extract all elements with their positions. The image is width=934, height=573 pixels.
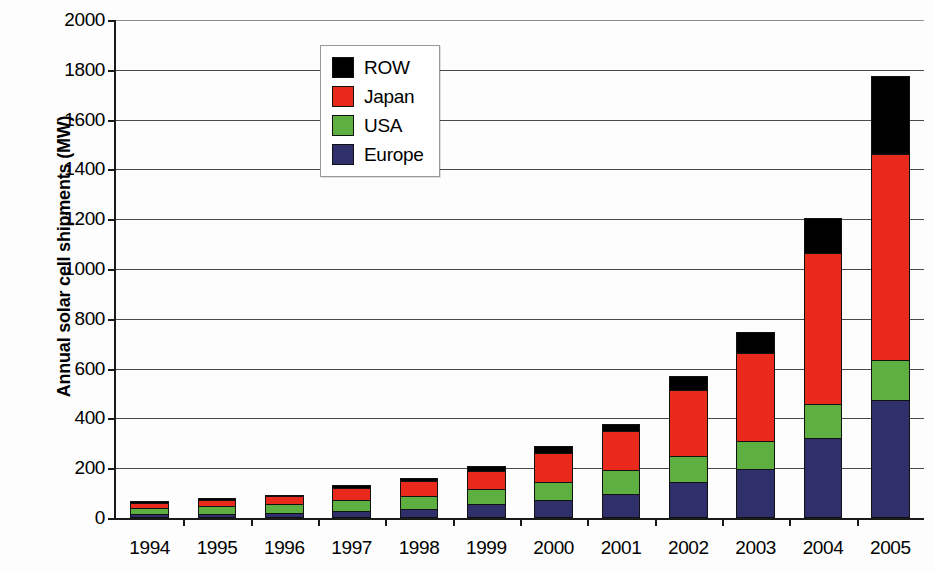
stacked-bar-chart: Annual solar cell shipments (MW) 0200400… <box>0 0 934 573</box>
x-tick-label: 2005 <box>870 537 911 559</box>
bar-stack[interactable] <box>804 219 842 518</box>
bar-segment-europe[interactable] <box>467 504 506 518</box>
bar-segment-usa[interactable] <box>871 360 910 401</box>
bar-segment-row[interactable] <box>332 485 371 489</box>
y-tick-label: 2000 <box>64 9 105 31</box>
legend-label: ROW <box>364 57 410 79</box>
x-tick-mark <box>520 518 522 526</box>
x-tick-mark <box>655 518 657 526</box>
x-tick-label: 2004 <box>803 537 844 559</box>
bar-segment-row[interactable] <box>669 376 708 391</box>
bar-segment-europe[interactable] <box>669 482 708 518</box>
bar-segment-row[interactable] <box>736 332 775 354</box>
bar-group[interactable] <box>131 20 169 518</box>
bar-stack[interactable] <box>333 486 371 518</box>
bar-segment-row[interactable] <box>871 76 910 154</box>
bar-group[interactable] <box>602 20 640 518</box>
bar-group[interactable] <box>535 20 573 518</box>
legend-item-row[interactable]: ROW <box>332 53 423 82</box>
bar-segment-row[interactable] <box>265 495 304 498</box>
bar-segment-row[interactable] <box>602 424 641 433</box>
bar-segment-europe[interactable] <box>534 500 573 519</box>
y-tick-label: 1200 <box>64 208 105 230</box>
y-tick-mark <box>108 20 116 22</box>
x-tick-label: 2000 <box>533 537 574 559</box>
bar-segment-usa[interactable] <box>669 456 708 483</box>
bar-group[interactable] <box>467 20 505 518</box>
legend-swatch-icon <box>332 144 354 165</box>
bar-segment-usa[interactable] <box>400 496 439 510</box>
bar-segment-japan[interactable] <box>467 471 506 490</box>
bar-segment-row[interactable] <box>130 501 169 505</box>
bar-segment-japan[interactable] <box>400 481 439 498</box>
bar-stack[interactable] <box>265 496 303 518</box>
bar-segment-usa[interactable] <box>736 441 775 470</box>
bar-segment-japan[interactable] <box>736 353 775 443</box>
bar-segment-japan[interactable] <box>332 488 371 501</box>
bar-stack[interactable] <box>737 333 775 519</box>
x-tick-mark <box>385 518 387 526</box>
bar-segment-usa[interactable] <box>804 404 843 439</box>
y-tick-mark <box>108 418 116 420</box>
y-tick-label: 1000 <box>64 258 105 280</box>
bar-segment-europe[interactable] <box>871 400 910 518</box>
bar-segment-usa[interactable] <box>198 506 237 515</box>
bar-segment-usa[interactable] <box>332 500 371 513</box>
bar-segment-japan[interactable] <box>804 253 843 405</box>
bar-stack[interactable] <box>669 377 707 518</box>
bar-segment-row[interactable] <box>467 466 506 473</box>
x-tick-label: 1994 <box>129 537 170 559</box>
bar-group[interactable] <box>198 20 236 518</box>
bar-segment-row[interactable] <box>534 446 573 454</box>
bar-segment-japan[interactable] <box>669 390 708 457</box>
bar-segment-usa[interactable] <box>265 504 304 514</box>
bar-segment-row[interactable] <box>804 218 843 254</box>
y-tick-mark <box>108 319 116 321</box>
bar-group[interactable] <box>669 20 707 518</box>
bar-group[interactable] <box>265 20 303 518</box>
bar-segment-europe[interactable] <box>400 509 439 518</box>
legend-swatch-icon <box>332 115 354 136</box>
bar-stack[interactable] <box>467 467 505 518</box>
x-tick-mark <box>857 518 859 526</box>
y-tick-label: 0 <box>95 507 105 529</box>
bar-segment-japan[interactable] <box>602 431 641 471</box>
bar-stack[interactable] <box>535 447 573 518</box>
y-tick-mark <box>108 219 116 221</box>
bar-segment-row[interactable] <box>198 498 237 501</box>
plot-area: 0200400600800100012001400160018002000 19… <box>114 20 924 520</box>
bar-segment-japan[interactable] <box>265 496 304 505</box>
legend-label: USA <box>364 115 402 137</box>
legend-item-usa[interactable]: USA <box>332 111 423 140</box>
y-tick-mark <box>108 120 116 122</box>
bar-segment-europe[interactable] <box>804 437 843 518</box>
bar-segment-europe[interactable] <box>602 493 641 518</box>
bar-stack[interactable] <box>400 479 438 518</box>
x-tick-mark <box>587 518 589 526</box>
legend-item-europe[interactable]: Europe <box>332 140 423 169</box>
x-tick-mark <box>789 518 791 526</box>
y-tick-label: 200 <box>74 457 105 479</box>
bar-group[interactable] <box>737 20 775 518</box>
bar-segment-japan[interactable] <box>871 153 910 361</box>
x-tick-mark <box>318 518 320 526</box>
x-tick-label: 1999 <box>466 537 507 559</box>
bar-stack[interactable] <box>198 499 236 518</box>
x-tick-mark <box>453 518 455 526</box>
legend-label: Europe <box>364 144 423 166</box>
bar-segment-usa[interactable] <box>467 489 506 506</box>
legend-item-japan[interactable]: Japan <box>332 82 423 111</box>
bar-stack[interactable] <box>602 425 640 518</box>
bar-segment-usa[interactable] <box>534 482 573 501</box>
bar-segment-europe[interactable] <box>736 468 775 518</box>
y-axis-title: Annual solar cell shipments (MW) <box>54 17 75 497</box>
bar-stack[interactable] <box>871 77 909 518</box>
bar-segment-usa[interactable] <box>602 470 641 495</box>
bar-group[interactable] <box>871 20 909 518</box>
bar-stack[interactable] <box>131 502 169 518</box>
bar-segment-japan[interactable] <box>534 452 573 483</box>
x-tick-label: 2001 <box>601 537 642 559</box>
y-tick-label: 1600 <box>64 109 105 131</box>
bar-segment-row[interactable] <box>400 478 439 482</box>
bar-group[interactable] <box>804 20 842 518</box>
